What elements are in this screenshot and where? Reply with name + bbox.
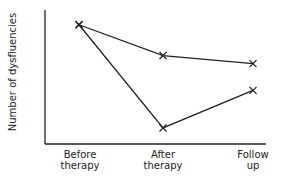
x-tick-follow-up: Followup bbox=[228, 149, 278, 171]
series-line-1 bbox=[79, 25, 253, 128]
x-marker-icon bbox=[76, 21, 83, 28]
y-axis-label: Number of dysfluencies bbox=[3, 0, 21, 144]
x-marker-icon bbox=[160, 124, 167, 131]
y-axis-label-text: Number of dysfluencies bbox=[7, 13, 18, 131]
series-layer bbox=[76, 21, 257, 131]
x-marker-icon bbox=[250, 87, 257, 94]
x-tick-after-therapy: Aftertherapy bbox=[138, 149, 188, 171]
x-tick-before-therapy: Beforetherapy bbox=[55, 149, 105, 171]
